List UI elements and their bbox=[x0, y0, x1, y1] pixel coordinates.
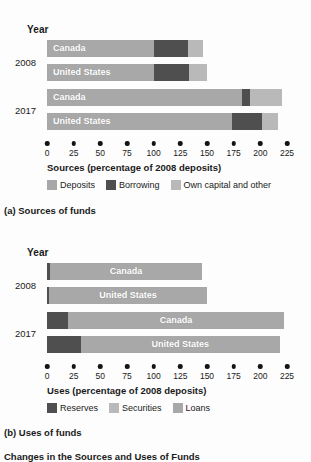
bar-row: United States bbox=[47, 64, 287, 81]
legend-item[interactable]: Securities bbox=[109, 403, 162, 413]
caption-uses: (b) Uses of funds bbox=[4, 427, 82, 438]
bar-segment-reserves bbox=[47, 336, 81, 353]
legend-label: Deposits bbox=[60, 180, 95, 190]
axis-tick-label: 50 bbox=[96, 371, 105, 381]
axis-tick-dot bbox=[231, 141, 236, 146]
bar-segment-reserves bbox=[47, 312, 68, 329]
bar-segment-deposits bbox=[47, 89, 242, 106]
axis-tick-dot bbox=[258, 141, 263, 146]
legend-label: Borrowing bbox=[119, 180, 160, 190]
stacked-bar[interactable] bbox=[47, 312, 284, 329]
axis-tick-label: 75 bbox=[122, 371, 131, 381]
figure-title: Changes in the Sources and Uses of Funds bbox=[4, 451, 200, 462]
bar-segment-borrowing bbox=[154, 40, 188, 57]
year-label-2017-b: 2017 bbox=[15, 328, 36, 339]
axis-tick-label: 100 bbox=[147, 371, 161, 381]
caption-sources: (a) Sources of funds bbox=[4, 205, 96, 216]
axis-tick-label: 175 bbox=[227, 148, 241, 158]
stacked-bar[interactable] bbox=[47, 263, 202, 280]
axis-tick-dot bbox=[71, 141, 76, 146]
legend-label: Loans bbox=[186, 403, 211, 413]
axis-tick-dot bbox=[151, 364, 156, 369]
axis-tick-label: 125 bbox=[173, 371, 187, 381]
bar-segment-loans bbox=[68, 312, 283, 329]
bar-segment-own-capital-and-other bbox=[189, 64, 207, 81]
x-axis-title-uses: Uses (percentage of 2008 deposits) bbox=[47, 385, 206, 396]
axis-tick-label: 125 bbox=[173, 148, 187, 158]
bar-segment-own-capital-and-other bbox=[250, 89, 282, 106]
bar-segment-loans bbox=[81, 336, 279, 353]
axis-tick-dot bbox=[178, 141, 183, 146]
legend-item[interactable]: Loans bbox=[173, 403, 211, 413]
axis-tick-label: 225 bbox=[280, 148, 294, 158]
x-axis-sources: 0255075100125150175200225 bbox=[47, 141, 287, 163]
year-label-2008-a: 2008 bbox=[15, 57, 36, 68]
bar-segment-own-capital-and-other bbox=[188, 40, 203, 57]
axis-tick-label: 25 bbox=[69, 371, 78, 381]
bar-segment-loans bbox=[49, 287, 207, 304]
axis-tick-label: 150 bbox=[200, 148, 214, 158]
axis-tick-dot bbox=[285, 141, 290, 146]
stacked-bar[interactable] bbox=[47, 336, 280, 353]
axis-tick-label: 50 bbox=[96, 148, 105, 158]
legend-swatch-icon bbox=[47, 403, 57, 413]
bar-row: United States bbox=[47, 336, 287, 353]
legend-swatch-icon bbox=[109, 403, 119, 413]
axis-tick-dot bbox=[45, 364, 50, 369]
bar-segment-borrowing bbox=[154, 64, 189, 81]
legend-swatch-icon bbox=[47, 180, 57, 190]
bar-row: Canada bbox=[47, 263, 287, 280]
bar-segment-deposits bbox=[47, 113, 232, 130]
legend-label: Securities bbox=[122, 403, 162, 413]
stacked-bar[interactable] bbox=[47, 89, 282, 106]
bar-segment-borrowing bbox=[232, 113, 263, 130]
axis-tick-dot bbox=[98, 141, 103, 146]
bar-row: Canada bbox=[47, 312, 287, 329]
year-axis-header-b: Year bbox=[27, 247, 49, 258]
figure-page: Year 2008 2017 CanadaUnited StatesCanada… bbox=[0, 0, 311, 462]
bar-segment-borrowing bbox=[242, 89, 249, 106]
axis-tick-dot bbox=[258, 364, 263, 369]
axis-tick-dot bbox=[45, 141, 50, 146]
axis-tick-dot bbox=[285, 364, 290, 369]
axis-tick-dot bbox=[205, 141, 210, 146]
legend-swatch-icon bbox=[173, 403, 183, 413]
bar-segment-deposits bbox=[47, 40, 154, 57]
axis-tick-dot bbox=[71, 364, 76, 369]
legend-label: Reserves bbox=[60, 403, 98, 413]
legend-item[interactable]: Deposits bbox=[47, 180, 95, 190]
legend-uses: ReservesSecuritiesLoans bbox=[47, 403, 297, 413]
stacked-bar[interactable] bbox=[47, 287, 207, 304]
axis-tick-label: 175 bbox=[227, 371, 241, 381]
legend-item[interactable]: Borrowing bbox=[106, 180, 160, 190]
year-label-2008-b: 2008 bbox=[15, 280, 36, 291]
axis-tick-dot bbox=[125, 141, 130, 146]
axis-tick-label: 150 bbox=[200, 371, 214, 381]
panel-sources: Year 2008 2017 CanadaUnited StatesCanada… bbox=[0, 0, 311, 231]
axis-tick-label: 75 bbox=[122, 148, 131, 158]
legend-swatch-icon bbox=[106, 180, 116, 190]
axis-tick-label: 200 bbox=[253, 148, 267, 158]
axis-tick-label: 25 bbox=[69, 148, 78, 158]
axis-tick-dot bbox=[151, 141, 156, 146]
axis-tick-dot bbox=[125, 364, 130, 369]
stacked-bar[interactable] bbox=[47, 113, 278, 130]
stacked-bar[interactable] bbox=[47, 40, 203, 57]
bar-segment-deposits bbox=[47, 64, 154, 81]
bar-row: Canada bbox=[47, 89, 287, 106]
legend-item[interactable]: Own capital and other bbox=[171, 180, 272, 190]
bar-row: United States bbox=[47, 287, 287, 304]
axis-tick-label: 200 bbox=[253, 371, 267, 381]
axis-tick-dot bbox=[231, 364, 236, 369]
bar-row: Canada bbox=[47, 40, 287, 57]
axis-tick-label: 0 bbox=[45, 148, 50, 158]
axis-tick-label: 0 bbox=[45, 371, 50, 381]
year-label-2017-a: 2017 bbox=[15, 105, 36, 116]
panel-uses: Year 2008 2017 CanadaUnited StatesCanada… bbox=[0, 231, 311, 462]
axis-tick-dot bbox=[205, 364, 210, 369]
legend-item[interactable]: Reserves bbox=[47, 403, 98, 413]
bar-segment-own-capital-and-other bbox=[262, 113, 278, 130]
stacked-bar[interactable] bbox=[47, 64, 207, 81]
axis-tick-dot bbox=[178, 364, 183, 369]
axis-tick-label: 225 bbox=[280, 371, 294, 381]
